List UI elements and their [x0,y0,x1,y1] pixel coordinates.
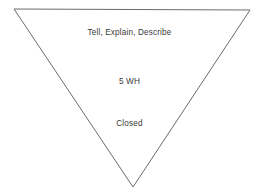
funnel-label-level-1: Tell, Explain, Describe [0,28,261,38]
diagram-canvas: Tell, Explain, Describe 5 WH Closed [0,0,261,196]
funnel-label-level-3-text: Closed [116,119,142,128]
funnel-label-level-3: Closed [0,119,261,129]
funnel-label-level-2: 5 WH [0,77,261,87]
funnel-label-level-1-text: Tell, Explain, Describe [88,28,172,37]
funnel-label-level-2-text: 5 WH [119,77,140,86]
